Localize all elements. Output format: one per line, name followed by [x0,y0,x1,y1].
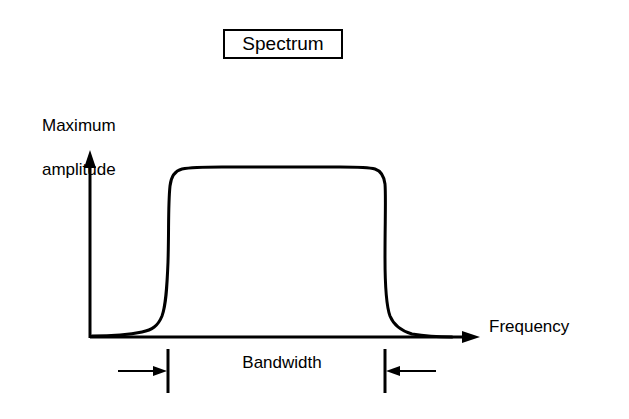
spectrum-figure: Spectrum Maximum amplitude Frequency Ban… [0,0,629,419]
arrow-left-icon-bandwidth-right [386,366,400,376]
arrow-right-icon [462,331,480,343]
arrow-right-icon-bandwidth-left [153,366,167,376]
spectrum-plot [0,0,629,419]
arrow-up-icon [84,150,96,168]
spectrum-curve [92,167,452,337]
